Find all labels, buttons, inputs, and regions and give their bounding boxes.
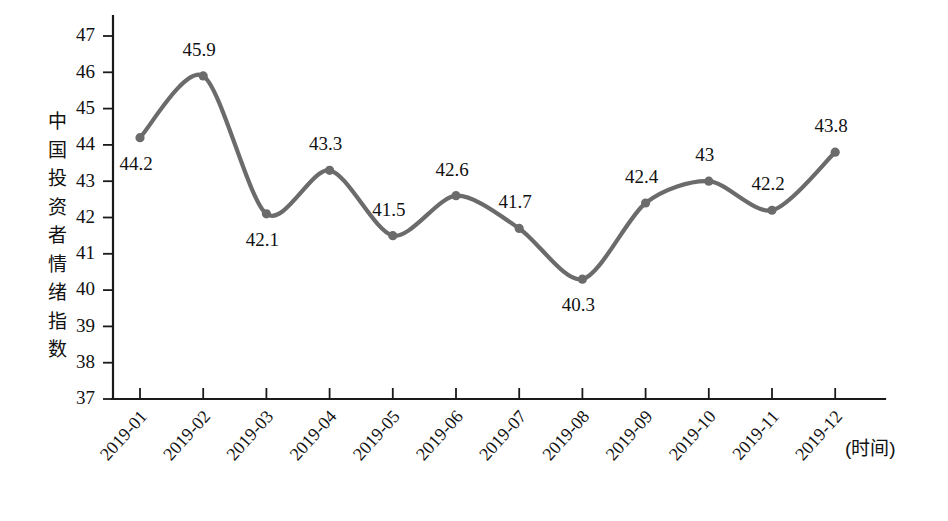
y-axis-title-char: 者 [48,225,67,246]
y-tick-label: 43 [76,170,95,191]
y-tick-label: 39 [76,315,95,336]
data-point-marker [325,166,334,175]
data-point-marker [641,198,650,207]
y-tick-label: 44 [76,133,96,154]
data-point-value-label: 42.6 [435,159,468,180]
y-tick-label: 42 [76,206,95,227]
data-point-marker [451,191,460,200]
data-point-marker [578,275,587,284]
data-point-marker [135,133,144,142]
data-point-value-label: 41.7 [499,191,532,212]
y-tick-label: 47 [76,24,95,45]
y-tick-label: 41 [76,242,95,263]
y-axis-title-char: 投 [48,168,67,189]
y-axis-title-char: 国 [48,140,67,161]
y-tick-label: 38 [76,351,95,372]
x-axis-caption: (时间) [845,438,896,459]
data-point-marker [515,224,524,233]
data-point-value-label: 42.2 [751,173,784,194]
data-point-value-label: 42.4 [625,166,659,187]
data-point-value-label: 40.3 [562,294,595,315]
data-point-value-label: 43.3 [309,133,342,154]
y-axis-title-char: 情 [48,254,67,275]
y-axis-title-char: 绪 [48,282,67,303]
data-point-marker [262,209,271,218]
y-tick-label: 45 [76,97,95,118]
y-axis-title-char: 中 [48,111,67,132]
investor-sentiment-line-chart: 中国投资者情绪指数 3738394041424344454647 2019-01… [0,0,948,521]
data-point-value-label: 45.9 [183,39,216,60]
y-axis-title-char: 指 [48,311,67,332]
data-point-marker [831,148,840,157]
y-tick-label: 37 [76,387,95,408]
y-tick-label: 40 [76,278,95,299]
data-point-value-label: 41.5 [372,199,405,220]
data-point-value-label: 44.2 [119,153,152,174]
y-tick-label: 46 [76,61,95,82]
data-point-marker [388,231,397,240]
data-point-marker [767,206,776,215]
data-point-value-label: 43 [695,144,714,165]
chart-container: 中国投资者情绪指数 3738394041424344454647 2019-01… [0,0,948,521]
y-axis-title-char: 数 [48,339,67,360]
data-point-marker [199,71,208,80]
data-point-value-label: 42.1 [246,229,279,250]
data-point-value-label: 43.8 [815,115,848,136]
y-axis-title-char: 资 [48,197,67,218]
y-axis-title: 中国投资者情绪指数 [48,111,67,360]
data-point-marker [704,177,713,186]
